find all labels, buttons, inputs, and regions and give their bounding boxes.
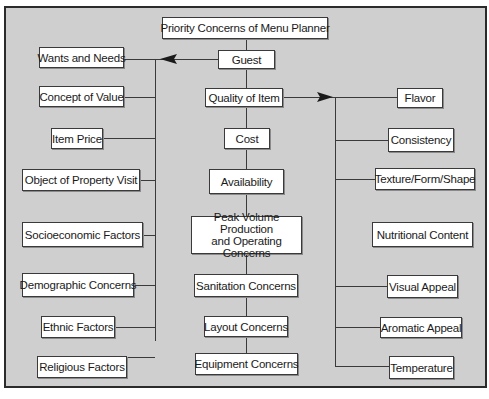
connector-socioeconomic [143, 235, 155, 236]
center-label: Layout Concerns [204, 321, 288, 333]
quality-factor-temperature: Temperature [389, 356, 454, 379]
guest-factor-religious: Religious Factors [37, 356, 127, 378]
guest-factor-label: Demographic Concerns [20, 279, 137, 291]
quality-factor-aromatic: Aromatic Appeal [380, 317, 462, 338]
connector-guest-left [124, 59, 218, 60]
quality-factor-texture: Texture/Form/Shape [375, 168, 475, 190]
quality-factor-label: Visual Appeal [389, 281, 456, 293]
center-label: Guest [232, 54, 262, 66]
connector-religious [127, 357, 155, 358]
root-label: Priority Concerns of Menu Planner [160, 22, 329, 34]
connector-left-spine [155, 59, 156, 341]
connector-ethnic [115, 327, 155, 328]
center-box-quality-of-item: Quality of Item [205, 88, 283, 107]
connector-concept-of-value [124, 97, 155, 98]
quality-factor-label: Aromatic Appeal [381, 322, 462, 334]
center-box-equipment: Equipment Concerns [195, 353, 298, 375]
connector-consistency [335, 140, 390, 141]
quality-factor-nutritional: Nutritional Content [372, 222, 473, 247]
guest-factor-label: Item Price [52, 133, 102, 145]
connector-item-price [103, 138, 155, 139]
connector-object-of-visit [140, 180, 155, 181]
quality-factor-label: Nutritional Content [377, 229, 468, 241]
center-label: Sanitation Concerns [196, 280, 296, 292]
guest-factor-label: Socioeconomic Factors [25, 229, 140, 241]
connector-demographic [134, 285, 155, 286]
center-box-peak-volume: Peak Volume Production and Operating Con… [191, 216, 302, 254]
center-label-line2: and Operating Concerns [192, 235, 301, 259]
center-box-guest: Guest [218, 50, 275, 69]
center-box-sanitation: Sanitation Concerns [194, 274, 298, 297]
guest-factor-object-of-visit: Object of Property Visit [22, 169, 140, 191]
quality-factor-flavor: Flavor [397, 88, 443, 108]
center-label-line1: Peak Volume Production [192, 211, 301, 235]
guest-factor-ethnic: Ethnic Factors [41, 316, 115, 338]
connector-aromatic [335, 327, 380, 328]
guest-factor-label: Concept of Value [39, 91, 123, 103]
center-label: Equipment Concerns [195, 358, 299, 370]
guest-factor-label: Wants and Needs [38, 52, 126, 64]
connector-visual [335, 286, 387, 287]
guest-factor-label: Ethnic Factors [43, 321, 114, 333]
quality-factor-consistency: Consistency [388, 128, 454, 152]
guest-factor-demographic: Demographic Concerns [22, 273, 134, 297]
center-box-availability: Availability [209, 169, 284, 194]
guest-factor-wants-needs: Wants and Needs [39, 47, 124, 68]
connector-quality-right [282, 97, 397, 98]
center-box-layout: Layout Concerns [204, 316, 288, 337]
connector-texture [335, 179, 380, 180]
quality-factor-label: Consistency [391, 134, 451, 146]
root-box: Priority Concerns of Menu Planner [162, 17, 328, 39]
guest-factor-socioeconomic: Socioeconomic Factors [22, 222, 143, 247]
connector-temperature [335, 366, 389, 367]
center-label: Cost [236, 133, 259, 145]
quality-factor-label: Texture/Form/Shape [375, 173, 476, 185]
guest-factor-label: Religious Factors [39, 361, 124, 373]
center-box-cost: Cost [224, 128, 270, 149]
guest-factor-concept-of-value: Concept of Value [39, 86, 124, 107]
quality-factor-label: Flavor [405, 92, 436, 104]
guest-factor-label: Object of Property Visit [25, 174, 138, 186]
quality-factor-visual: Visual Appeal [387, 275, 458, 298]
center-label: Availability [221, 176, 273, 188]
quality-factor-label: Temperature [390, 362, 452, 374]
center-label: Quality of Item [208, 92, 279, 104]
guest-factor-item-price: Item Price [51, 128, 103, 149]
